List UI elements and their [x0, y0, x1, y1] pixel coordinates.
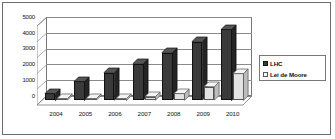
dark-square-swatch [263, 61, 268, 66]
bar-lei-de-moore-2004 [57, 99, 68, 101]
y-tick-5000: 5000 [9, 14, 35, 21]
y-tick-3000: 3000 [9, 45, 35, 52]
y-tick-1000: 1000 [9, 77, 35, 84]
light-square-swatch [263, 72, 268, 77]
bar-lhc-2010 [221, 29, 232, 100]
bar-3d-shading [174, 89, 189, 100]
bar-3d-shading [145, 92, 160, 100]
legend-item-lhc: LHC [263, 59, 322, 68]
x-tick-2010: 2010 [218, 110, 247, 118]
legend-item-lei-de-moore: Lei de Moore [263, 70, 322, 79]
bar-lei-de-moore-2006 [116, 98, 127, 100]
x-tick-2008: 2008 [159, 110, 188, 118]
bar-lhc-2008 [162, 53, 173, 100]
legend-label-lei-de-moore: Lei de Moore [270, 71, 307, 78]
bar-lhc-2006 [104, 73, 115, 101]
chart-screenshot: 5000 4000 3000 2000 1000 0 [0, 0, 335, 139]
bar-lei-de-moore-2009 [204, 87, 215, 100]
bar-chart: 5000 4000 3000 2000 1000 0 [0, 0, 335, 139]
bar-3d-shading [116, 94, 131, 101]
x-tick-2007: 2007 [130, 110, 159, 118]
y-tick-4000: 4000 [9, 30, 35, 37]
y-axis-labels: 5000 4000 3000 2000 1000 0 [8, 17, 35, 109]
bar-lei-de-moore-2010 [233, 73, 244, 100]
x-tick-2006: 2006 [100, 110, 129, 118]
bar-lei-de-moore-2008 [174, 93, 185, 100]
bar-3d-shading [57, 94, 72, 100]
chart-legend: LHC Lei de Moore [259, 55, 326, 81]
bar-3d-shading [204, 82, 219, 100]
legend-label-lhc: LHC [270, 60, 282, 67]
bar-lhc-2009 [192, 42, 203, 100]
plot-area [37, 17, 252, 105]
bar-3d-shading [86, 94, 101, 100]
x-tick-2004: 2004 [41, 110, 70, 118]
x-tick-2005: 2005 [71, 110, 100, 118]
y-tick-2000: 2000 [9, 61, 35, 68]
bar-lhc-2005 [74, 81, 85, 100]
x-tick-2009: 2009 [188, 110, 217, 118]
bars-container [37, 17, 252, 105]
bar-3d-shading [233, 69, 248, 100]
bar-lei-de-moore-2007 [145, 97, 156, 101]
y-tick-0: 0 [9, 93, 35, 100]
bar-lei-de-moore-2005 [86, 99, 97, 101]
x-axis-labels: 2004200520062007200820092010 [37, 110, 252, 120]
bar-lhc-2007 [133, 64, 144, 100]
bar-lhc-2004 [45, 93, 56, 100]
